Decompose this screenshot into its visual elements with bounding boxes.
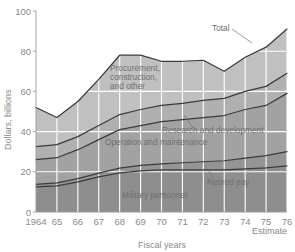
x-tick-label-68: 68 <box>114 216 125 227</box>
y-tick-label-80: 80 <box>20 46 31 57</box>
estimate-note: Estimate <box>252 226 287 236</box>
series-label-research-and-development: Research and development <box>162 125 264 135</box>
y-tick-label-20: 20 <box>20 166 31 177</box>
series-label-operation-and-maintenance: Operation and maintenance <box>105 137 208 147</box>
y-tick-label-40: 40 <box>20 126 31 137</box>
y-axis-title: Dollars, billions <box>3 89 13 150</box>
x-tick-label-1964: 1964 <box>25 216 46 227</box>
leader-line-total <box>232 29 252 43</box>
x-tick-label-73: 73 <box>219 216 230 227</box>
series-label-military-personnel: Military personnel <box>122 190 187 200</box>
x-tick-label-65: 65 <box>52 216 63 227</box>
y-axis-ticks: 020406080100 <box>15 6 36 218</box>
x-tick-label-69: 69 <box>135 216 146 227</box>
stacked-area-chart: 020406080100 196465666768697071727374757… <box>0 0 295 252</box>
x-tick-label-74: 74 <box>240 216 251 227</box>
x-tick-label-66: 66 <box>73 216 84 227</box>
x-tick-label-72: 72 <box>198 216 209 227</box>
chart-container: 020406080100 196465666768697071727374757… <box>0 0 295 252</box>
x-tick-label-70: 70 <box>156 216 167 227</box>
x-axis-title: Fiscal years <box>138 240 187 250</box>
x-tick-label-71: 71 <box>177 216 188 227</box>
y-tick-label-100: 100 <box>15 6 31 17</box>
y-tick-label-60: 60 <box>20 86 31 97</box>
x-tick-label-67: 67 <box>93 216 104 227</box>
series-label-total: Total <box>212 23 230 33</box>
series-label-procurement-line3: and other <box>110 81 145 91</box>
